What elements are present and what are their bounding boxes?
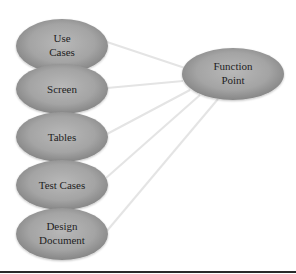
node-function-point: Function Point [182, 48, 284, 100]
edge-use-cases-to-function-point [107, 42, 185, 68]
node-screen-label: Screen [47, 83, 77, 95]
node-design-document: Design Document [16, 208, 108, 260]
edge-design-document-to-function-point [106, 99, 218, 232]
edge-tables-to-function-point [107, 90, 190, 134]
node-function-point-label-line2: Point [221, 74, 244, 86]
edge-screen-to-function-point [107, 81, 183, 88]
node-tables-label: Tables [48, 131, 77, 143]
node-function-point-label-line1: Function [213, 60, 253, 72]
node-tables: Tables [16, 112, 108, 162]
node-design-document-label-line1: Design [46, 220, 78, 232]
node-test-cases-label: Test Cases [39, 179, 86, 191]
node-use-cases-label-line2: Cases [49, 46, 75, 58]
bottom-rule [0, 271, 296, 273]
function-point-diagram: Use Cases Screen Tables Test Cases Desig… [0, 0, 296, 274]
node-screen: Screen [16, 64, 108, 114]
node-test-cases: Test Cases [16, 160, 108, 210]
node-use-cases-label-line1: Use [53, 32, 70, 44]
node-design-document-label-line2: Document [39, 234, 85, 246]
